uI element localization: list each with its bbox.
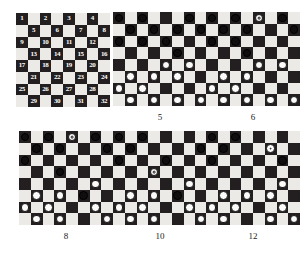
piece-black-r2-c2[interactable]: [231, 37, 240, 46]
square-r4-c2[interactable]: [137, 59, 149, 71]
piece-black-r1-c3[interactable]: [56, 144, 65, 153]
square-r5-c7[interactable]: [288, 190, 300, 202]
square-r7-c3[interactable]: [54, 213, 66, 225]
square-r6-c4[interactable]: [253, 83, 265, 95]
piece-white-r7-c1[interactable]: [219, 215, 228, 224]
square-r0-c2[interactable]: [43, 131, 55, 143]
piece-white-r4-c6[interactable]: [91, 180, 100, 189]
piece-black-r0-c2[interactable]: [231, 14, 240, 23]
square-r0-c7[interactable]: [288, 131, 300, 143]
piece-white-r6-c0[interactable]: [208, 84, 217, 93]
square-r3-c0[interactable]: [113, 166, 125, 178]
square-r1-c0[interactable]: [16, 25, 28, 37]
square-r4-c2[interactable]: 18: [40, 60, 52, 72]
square-r0-c6[interactable]: [184, 12, 196, 24]
piece-black-r2-c0[interactable]: [208, 37, 217, 46]
piece-black-r2-c0[interactable]: [208, 156, 217, 165]
piece-white-r5-c5[interactable]: [173, 72, 182, 81]
square-r2-c5[interactable]: [265, 155, 277, 167]
square-r6-c6[interactable]: 28: [87, 84, 99, 96]
square-r7-c2[interactable]: [43, 213, 55, 225]
square-r1-c0[interactable]: [206, 143, 218, 155]
square-r4-c2[interactable]: [137, 178, 149, 190]
piece-white-r6-c6[interactable]: [278, 203, 287, 212]
square-r7-c0[interactable]: [206, 213, 218, 225]
square-r4-c0[interactable]: [19, 178, 31, 190]
square-r2-c1[interactable]: [125, 155, 137, 167]
square-r4-c6[interactable]: [184, 59, 196, 71]
square-r6-c6[interactable]: [184, 83, 196, 95]
square-r2-c5[interactable]: [265, 36, 277, 48]
square-r3-c1[interactable]: [31, 166, 43, 178]
square-r3-c5[interactable]: [265, 166, 277, 178]
square-r7-c0[interactable]: [206, 94, 218, 106]
piece-black-r2-c0[interactable]: [115, 37, 124, 46]
square-r4-c4[interactable]: [253, 59, 265, 71]
square-r0-c2[interactable]: [230, 131, 242, 143]
square-r7-c5[interactable]: [265, 213, 277, 225]
square-r3-c1[interactable]: [218, 47, 230, 59]
square-r4-c7[interactable]: [288, 178, 300, 190]
square-r5-c2[interactable]: [230, 190, 242, 202]
square-r0-c0[interactable]: [206, 131, 218, 143]
square-r4-c3[interactable]: [241, 59, 253, 71]
piece-white-r7-c7[interactable]: [290, 96, 299, 105]
square-r1-c4[interactable]: [160, 143, 172, 155]
square-r2-c4[interactable]: [160, 155, 172, 167]
square-r7-c0[interactable]: [16, 95, 28, 107]
piece-white-r7-c3[interactable]: [150, 96, 159, 105]
piece-white-r7-c1[interactable]: [126, 215, 135, 224]
square-r5-c0[interactable]: [19, 190, 31, 202]
piece-white-r7-c5[interactable]: [266, 215, 275, 224]
square-r3-c7[interactable]: [101, 166, 113, 178]
square-r5-c7[interactable]: [101, 190, 113, 202]
square-r1-c5[interactable]: [172, 24, 184, 36]
square-r2-c2[interactable]: 10: [40, 37, 52, 49]
square-r0-c1[interactable]: [218, 12, 230, 24]
square-r1-c7[interactable]: 8: [98, 25, 110, 37]
square-r3-c5[interactable]: [172, 166, 184, 178]
piece-white-r7-c5[interactable]: [173, 96, 182, 105]
square-r7-c0[interactable]: [113, 213, 125, 225]
square-r4-c1[interactable]: [125, 178, 137, 190]
square-r0-c5[interactable]: [172, 131, 184, 143]
piece-white-r5-c3[interactable]: [243, 191, 252, 200]
square-r7-c1[interactable]: [31, 213, 43, 225]
square-r1-c3[interactable]: [54, 143, 66, 155]
square-r0-c3[interactable]: [241, 131, 253, 143]
square-r1-c1[interactable]: [31, 143, 43, 155]
square-r5-c0[interactable]: [206, 71, 218, 83]
square-r3-c5[interactable]: [265, 47, 277, 59]
piece-white-r4-c4[interactable]: [162, 61, 171, 70]
square-r1-c1[interactable]: [218, 24, 230, 36]
square-r2-c4[interactable]: [66, 155, 78, 167]
square-r1-c2[interactable]: [230, 24, 242, 36]
square-r6-c4[interactable]: [160, 202, 172, 214]
square-r2-c3[interactable]: [148, 36, 160, 48]
square-r2-c0[interactable]: [206, 155, 218, 167]
square-r1-c1[interactable]: [218, 143, 230, 155]
square-r2-c5[interactable]: [172, 155, 184, 167]
square-r5-c2[interactable]: [137, 190, 149, 202]
square-r7-c2[interactable]: [40, 95, 52, 107]
square-r0-c7[interactable]: [101, 131, 113, 143]
square-r6-c5[interactable]: [265, 202, 277, 214]
piece-white-r7-c7[interactable]: [197, 96, 206, 105]
piece-black-r1-c1[interactable]: [219, 144, 228, 153]
piece-white-r4-c6[interactable]: [185, 61, 194, 70]
square-r5-c5[interactable]: [265, 190, 277, 202]
piece-black-r1-c1[interactable]: [126, 144, 135, 153]
square-r7-c6[interactable]: [90, 213, 102, 225]
square-r6-c1[interactable]: [218, 202, 230, 214]
square-r3-c5[interactable]: [172, 47, 184, 59]
piece-white-r7-c5[interactable]: [266, 96, 275, 105]
square-r4-c5[interactable]: [172, 178, 184, 190]
square-r5-c3[interactable]: 22: [51, 72, 63, 84]
square-r1-c4[interactable]: [66, 143, 78, 155]
square-r0-c6[interactable]: [184, 131, 196, 143]
piece-white-r5-c5[interactable]: [266, 191, 275, 200]
square-r6-c3[interactable]: [241, 83, 253, 95]
square-r5-c2[interactable]: [40, 72, 52, 84]
square-r5-c5[interactable]: [265, 71, 277, 83]
square-r2-c4[interactable]: [253, 36, 265, 48]
